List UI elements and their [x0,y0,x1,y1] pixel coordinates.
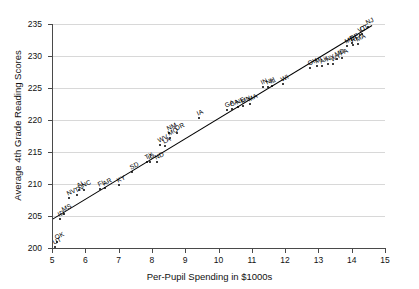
x-axis-tick [119,249,120,253]
data-point [352,44,354,46]
data-point [164,145,166,147]
data-point [68,197,70,199]
y-axis-tick [48,56,52,57]
gridline [52,120,385,121]
data-point [242,105,244,107]
x-axis-label: Per-Pupil Spending in $1000s [0,271,419,282]
y-axis-tick [48,248,52,249]
y-axis-tick [48,24,52,25]
x-axis-tick-label: 11 [239,255,265,265]
point-label: IA [195,108,204,117]
x-axis-tick-label: 13 [305,255,331,265]
data-point [249,103,251,105]
y-axis-tick [48,152,52,153]
data-point [149,161,151,163]
data-point [282,83,284,85]
scatter-chart: UTOKIDMSNVTNALNCFLARKYSDTXIDNDWVLANMMOOR… [0,0,419,289]
y-axis-tick [48,184,52,185]
y-axis-tick [48,216,52,217]
y-axis-line [52,24,53,249]
x-axis-tick [252,249,253,253]
x-axis-tick [85,249,86,253]
x-axis-tick [318,249,319,253]
x-axis-tick-label: 5 [39,255,65,265]
data-point [332,63,334,65]
data-point [76,194,78,196]
data-point [316,65,318,67]
y-axis-tick-label: 200 [18,243,42,253]
trendline [52,25,372,220]
data-point [159,144,161,146]
gridline [52,152,385,153]
gridline [52,216,385,217]
x-axis-tick-label: 12 [272,255,298,265]
x-axis-tick-label: 8 [139,255,165,265]
data-point [309,67,311,69]
x-axis-tick [385,249,386,253]
x-axis-tick [285,249,286,253]
data-point [118,184,120,186]
x-axis-tick [352,249,353,253]
data-point [226,109,228,111]
x-axis-tick [219,249,220,253]
plot-area: UTOKIDMSNVTNALNCFLARKYSDTXIDNDWVLANMMOOR… [52,24,385,248]
data-point [327,63,329,65]
point-label: OK [53,230,65,240]
x-axis-tick-label: 15 [372,255,398,265]
x-axis-tick [185,249,186,253]
data-point [357,43,359,45]
y-axis-tick [48,120,52,121]
gridline [52,24,385,25]
x-axis-tick [52,249,53,253]
x-axis-tick-label: 14 [339,255,365,265]
data-point [198,117,200,119]
gridline [52,88,385,89]
x-axis-tick-label: 9 [172,255,198,265]
data-point [156,161,158,163]
data-point [59,218,61,220]
x-axis-tick-label: 6 [72,255,98,265]
x-axis-tick [152,249,153,253]
y-axis-tick [48,88,52,89]
y-axis-label: Average 4th Grade Reading Scores [12,16,23,236]
x-axis-tick-label: 7 [106,255,132,265]
x-axis-tick-label: 10 [206,255,232,265]
